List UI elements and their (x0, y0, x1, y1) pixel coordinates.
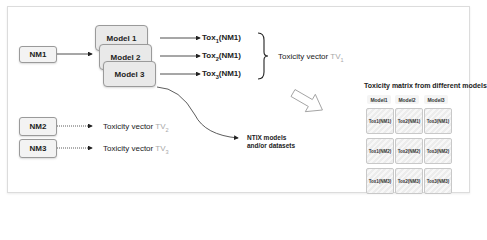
ntix-label: NTIX modelsand/or datasets (247, 134, 295, 150)
matrix-cell: Tox3(NM1) (424, 108, 452, 134)
input-nm2: NM2 (19, 117, 57, 136)
toxicity-vector-2: Toxicity vector TV2 (103, 122, 169, 133)
block-arrow-icon (288, 84, 327, 118)
model-3-card: Model 3 (103, 61, 156, 87)
tox-output-3: Tox3(NM1) (202, 69, 241, 80)
model-1-label: Model 1 (107, 34, 137, 43)
matrix-cell: Tox1(NM3) (366, 168, 394, 194)
tox-output-1: Tox1(NM1) (202, 33, 241, 44)
matrix-cell: Tox2(NM2) (395, 138, 423, 164)
matrix-header-model3: Model3 (424, 95, 448, 104)
matrix-cell: Tox1(NM2) (366, 138, 394, 164)
matrix-cell: Tox3(NM2) (424, 138, 452, 164)
input-nm1: NM1 (19, 46, 57, 63)
matrix-header-model2: Model2 (395, 95, 419, 104)
matrix-cell: Tox2(NM3) (395, 168, 423, 194)
toxicity-vector-1: Toxicity vector TV1 (278, 52, 344, 63)
matrix-title: Toxicity matrix from different models (364, 82, 487, 89)
nm3-label: NM3 (30, 144, 47, 153)
nm2-label: NM2 (30, 122, 47, 131)
input-nm3: NM3 (19, 139, 57, 158)
matrix-cell: Tox2(NM1) (395, 108, 423, 134)
matrix-cell: Tox1(NM1) (366, 108, 394, 134)
nm1-label: NM1 (30, 50, 47, 59)
matrix-header-model1: Model1 (367, 95, 391, 104)
matrix-cell: Tox3(NM3) (424, 168, 452, 194)
model-3-label: Model 3 (115, 70, 145, 79)
tox-output-2: Tox2(NM1) (202, 51, 241, 62)
toxicity-vector-3: Toxicity vector TV3 (103, 144, 169, 155)
